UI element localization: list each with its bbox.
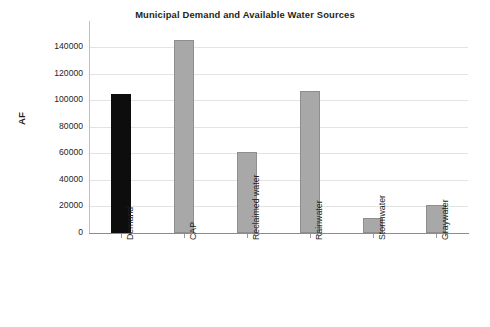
x-category-label: Stormwater: [377, 195, 387, 240]
y-tick-label: 140000: [0, 41, 83, 51]
y-tick-label: 40000: [0, 174, 83, 184]
x-axis-tick: [184, 234, 185, 238]
y-tick-label: 120000: [0, 68, 83, 78]
y-axis-tick-labels: 020000400006000080000100000120000140000: [0, 0, 85, 327]
x-axis-tick: [310, 234, 311, 238]
bars-container: [89, 21, 469, 233]
y-tick-label: 20000: [0, 200, 83, 210]
y-tick-label: 60000: [0, 147, 83, 157]
x-axis-tick: [247, 234, 248, 238]
y-tick-label: 0: [0, 227, 83, 237]
y-tick-label: 80000: [0, 121, 83, 131]
x-category-label: Demand: [125, 207, 135, 240]
x-axis-tick: [121, 234, 122, 238]
y-tick-label: 100000: [0, 94, 83, 104]
x-category-label: Rainwater: [314, 200, 324, 240]
x-category-label: CAP: [188, 222, 198, 240]
x-category-label: Graywater: [440, 199, 450, 240]
bar-chart-figure: Municipal Demand and Available Water Sou…: [0, 0, 490, 327]
x-axis-tick: [436, 234, 437, 238]
x-axis-line: [89, 233, 469, 234]
x-category-label: Reclaimed water: [251, 174, 261, 240]
bar-cap[interactable]: [174, 40, 194, 233]
x-axis-tick: [373, 234, 374, 238]
